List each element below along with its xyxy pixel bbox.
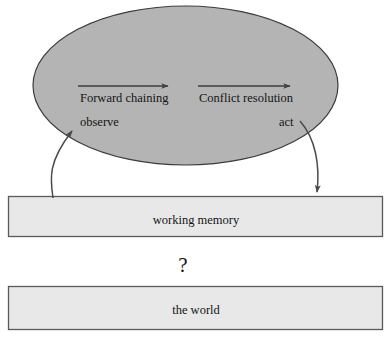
observe-label: observe [80, 116, 119, 129]
conflict-resolution-label: Conflict resolution [199, 92, 293, 105]
diagram-graphics [0, 0, 392, 343]
act-label: act [279, 116, 294, 129]
forward-chaining-label: Forward chaining [80, 92, 169, 105]
diagram-canvas: Forward chaining Conflict resolution obs… [0, 0, 392, 343]
working-memory-label: working memory [0, 214, 392, 227]
question-mark-annotation: ? [0, 255, 366, 276]
the-world-label: the world [0, 304, 392, 317]
observe-curved-arrow [51, 131, 72, 198]
